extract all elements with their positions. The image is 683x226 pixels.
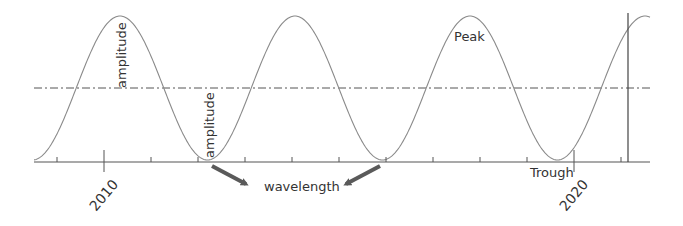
year-label-2010: 2010 xyxy=(86,176,121,214)
year-label-2020: 2020 xyxy=(556,176,591,214)
wavelength-arrow-right xyxy=(346,166,380,184)
amplitude-label-top: amplitude xyxy=(114,22,129,88)
wavelength-arrow-left xyxy=(212,166,246,184)
trough-label: Trough xyxy=(529,165,574,180)
amplitude-label-bottom: amplitude xyxy=(202,92,217,158)
wave-diagram: amplitude amplitude Peak Trough waveleng… xyxy=(0,0,683,226)
wavelength-label: wavelength xyxy=(264,179,340,194)
peak-label: Peak xyxy=(454,29,485,44)
